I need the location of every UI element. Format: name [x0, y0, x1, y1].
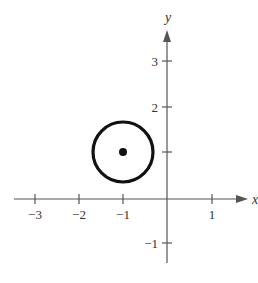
center-point	[119, 148, 127, 156]
x-tick-label-1: 1	[209, 207, 216, 222]
y-axis-label: y	[163, 10, 172, 25]
x-axis-label: x	[251, 192, 258, 207]
x-tick-label-neg1: −1	[116, 207, 130, 222]
y-tick-label-3: 3	[152, 54, 159, 69]
y-axis-arrow-icon	[163, 30, 171, 42]
y-tick-label-neg1: −1	[144, 236, 158, 251]
x-axis-arrow-icon	[236, 195, 248, 203]
x-tick-label-neg3: −3	[28, 207, 42, 222]
coordinate-plane: −3 −2 −1 1 3 2 −1 x y	[0, 0, 258, 283]
y-tick-label-2: 2	[152, 100, 159, 115]
x-tick-label-neg2: −2	[72, 207, 86, 222]
